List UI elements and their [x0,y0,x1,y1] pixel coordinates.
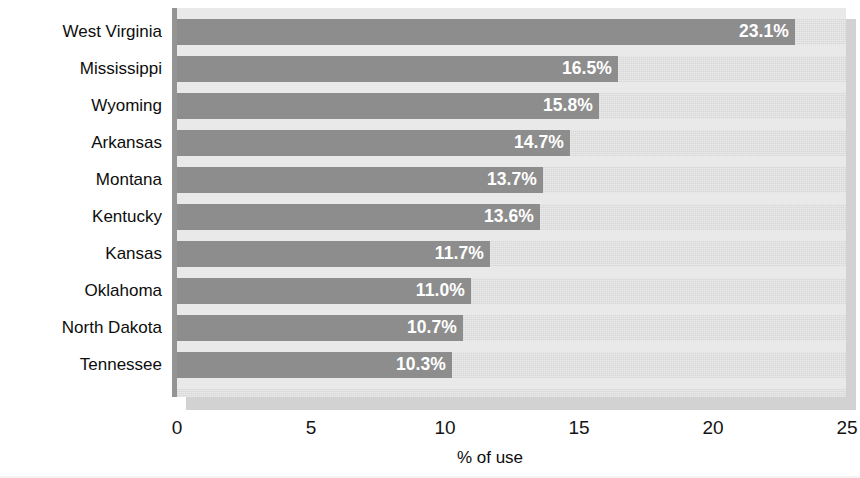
x-axis-tick-labels: 0510152025 [0,414,860,442]
row-band [176,45,846,56]
bar-row: 11.0% [176,267,846,304]
bar: 14.7% [176,130,570,156]
bar-value-label: 13.6% [484,208,534,226]
bar-row: 11.7% [176,230,846,267]
x-tick-label: 10 [415,414,475,442]
row-band [176,341,846,352]
row-band [176,267,846,278]
bar: 13.7% [176,167,543,193]
bar-value-label: 14.7% [514,134,564,152]
row-band [176,82,846,93]
category-axis-labels: West VirginiaMississippiWyomingArkansasM… [0,8,162,397]
bar-row: 13.6% [176,193,846,230]
category-label: Kentucky [0,204,162,230]
row-band [176,156,846,167]
category-label: Oklahoma [0,278,162,304]
category-label: Arkansas [0,130,162,156]
bar: 11.7% [176,241,490,267]
bar-row: 13.7% [176,156,846,193]
x-tick-label: 0 [147,414,207,442]
bar-value-label: 11.7% [435,245,484,263]
bar-value-label: 15.8% [543,97,593,115]
row-band [176,378,846,389]
x-tick-label: 20 [683,414,743,442]
row-band [176,193,846,204]
bar-value-label: 16.5% [562,60,612,78]
bar: 15.8% [176,93,599,119]
category-label: Tennessee [0,352,162,378]
bar-value-label: 11.0% [416,282,465,300]
x-tick-label: 5 [281,414,341,442]
category-label: Mississippi [0,56,162,82]
category-label: North Dakota [0,315,162,341]
bar-value-label: 10.7% [407,319,457,337]
category-label: Montana [0,167,162,193]
bar-value-label: 13.7% [487,171,537,189]
row-band [176,119,846,130]
bar-row: 23.1% [176,8,846,45]
bar-row: 15.8% [176,82,846,119]
row-band [176,304,846,315]
bar-rows: 23.1%16.5%15.8%14.7%13.7%13.6%11.7%11.0%… [176,8,846,397]
x-tick-label: 15 [549,414,609,442]
bar-value-label: 23.1% [739,23,789,41]
category-label: Kansas [0,241,162,267]
x-axis-title: % of use [176,448,804,468]
bar-row: 10.7% [176,304,846,341]
row-band [176,8,846,19]
bar-row: 14.7% [176,119,846,156]
bar: 10.3% [176,352,452,378]
bar: 11.0% [176,278,471,304]
bar-value-label: 10.3% [396,356,446,374]
bar-row: 16.5% [176,45,846,82]
x-tick-label: 25 [817,414,860,442]
bar: 13.6% [176,204,540,230]
row-band [176,230,846,241]
bar-chart: 23.1%16.5%15.8%14.7%13.7%13.6%11.7%11.0%… [0,0,860,478]
bar: 16.5% [176,56,618,82]
category-label: Wyoming [0,93,162,119]
y-axis-line [172,8,177,397]
bar: 23.1% [176,19,795,45]
bar: 10.7% [176,315,463,341]
bar-row: 10.3% [176,341,846,378]
category-label: West Virginia [0,19,162,45]
